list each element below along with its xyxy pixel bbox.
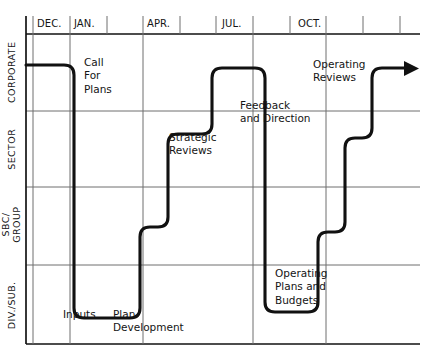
- month-label-dec: DEC.: [37, 18, 62, 29]
- annotation-call-for-plans: Call For Plans: [84, 56, 112, 96]
- row-label-corporate: CORPORATE: [7, 34, 18, 110]
- annotation-operating-reviews: Operating Reviews: [313, 58, 366, 85]
- annotation-operating-plans-and-budgets: Operating Plans and Budgets: [275, 267, 328, 307]
- annotation-feedback-and-direction: Feedback and Direction: [240, 99, 311, 126]
- planning-cycle-diagram: CORPORATE SECTOR SBC/ GROUP DIV./SUB. DE…: [0, 0, 424, 356]
- row-label-sector: SECTOR: [7, 111, 18, 187]
- month-label-jan: JAN.: [74, 18, 95, 29]
- month-label-jul: JUL.: [222, 18, 241, 29]
- month-label-apr: APR.: [147, 18, 170, 29]
- diagram-canvas: [0, 0, 424, 356]
- month-label-oct: OCT.: [298, 18, 321, 29]
- flow-arrow-head-icon: [404, 61, 419, 76]
- row-label-sbc-group: SBC/ GROUP: [1, 187, 22, 263]
- annotation-plan-development: Plan Development: [113, 308, 184, 335]
- planning-flow-curve: [26, 65, 405, 318]
- annotation-strategic-reviews: Strategic Reviews: [169, 131, 216, 158]
- row-label-div-sub: DIV./SUB.: [7, 267, 18, 343]
- annotation-inputs: Inputs: [63, 308, 96, 321]
